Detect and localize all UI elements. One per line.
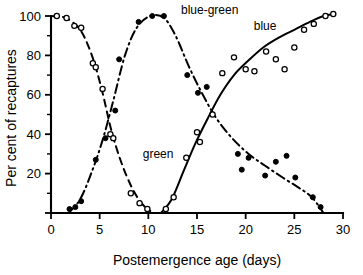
data-point — [163, 206, 168, 211]
data-point — [282, 67, 287, 72]
data-point — [239, 167, 244, 172]
data-point — [331, 11, 336, 16]
data-point — [252, 69, 257, 74]
data-point — [263, 173, 268, 178]
data-point — [310, 195, 315, 200]
y-tick-label: 60 — [27, 87, 41, 102]
data-point — [67, 207, 72, 212]
data-point — [113, 108, 118, 113]
x-tick-label: 10 — [141, 222, 155, 237]
data-point — [292, 45, 297, 50]
data-point — [93, 65, 98, 70]
series-label-blue-green: blue-green — [181, 3, 238, 17]
data-point — [273, 159, 278, 164]
data-point — [246, 155, 251, 160]
data-point — [136, 19, 141, 24]
data-point — [323, 13, 328, 18]
data-point — [243, 67, 248, 72]
data-point — [111, 136, 116, 141]
data-point — [73, 205, 78, 210]
data-point — [220, 71, 225, 76]
data-point — [231, 55, 236, 60]
data-point — [161, 14, 166, 19]
series-label-blue: blue — [254, 19, 277, 33]
data-point — [72, 23, 77, 28]
data-point — [197, 139, 202, 144]
data-point — [103, 136, 108, 141]
data-point — [210, 112, 215, 117]
y-tick-label: 20 — [27, 166, 41, 181]
x-tick-label: 30 — [336, 222, 350, 237]
data-point — [79, 199, 84, 204]
series-label-green: green — [143, 147, 174, 161]
data-point — [194, 130, 199, 135]
x-tick-label: 0 — [47, 222, 54, 237]
x-tick-label: 15 — [190, 222, 204, 237]
data-point — [273, 57, 278, 62]
data-point — [318, 205, 323, 210]
data-point — [235, 151, 240, 156]
data-point — [171, 195, 176, 200]
data-point — [185, 73, 190, 78]
data-point — [100, 86, 105, 91]
y-tick-label: 100 — [19, 9, 41, 24]
data-point — [311, 21, 316, 26]
data-point — [150, 14, 155, 19]
data-point — [293, 175, 298, 180]
data-point — [117, 57, 122, 62]
data-point — [184, 155, 189, 160]
data-point — [64, 15, 69, 20]
recapture-percentage-line-chart: 051015202530 20406080100 greenblue-green… — [0, 0, 363, 275]
y-tick-label: 80 — [27, 48, 41, 63]
data-point — [301, 27, 306, 32]
y-axis-title: Per cent of recaptures — [3, 49, 19, 187]
data-point — [128, 191, 133, 196]
data-point — [284, 153, 289, 158]
x-tick-label: 20 — [238, 222, 252, 237]
chart-figure: 051015202530 20406080100 greenblue-green… — [0, 0, 363, 275]
x-tick-label: 5 — [96, 222, 103, 237]
data-point — [137, 201, 142, 206]
data-point — [79, 25, 84, 30]
data-point — [204, 84, 209, 89]
y-tick-label: 40 — [27, 127, 41, 142]
data-point — [145, 206, 150, 211]
x-tick-label: 25 — [287, 222, 301, 237]
data-point — [93, 157, 98, 162]
data-point — [195, 90, 200, 95]
x-axis-title: Postemergence age (days) — [113, 252, 281, 268]
data-point — [264, 49, 269, 54]
data-point — [54, 13, 59, 18]
